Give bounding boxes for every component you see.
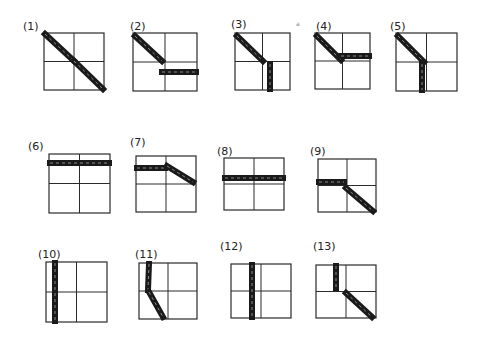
panel-label: (13) [313, 240, 336, 253]
panel-label: (4) [316, 20, 332, 33]
panel-label: (5) [390, 20, 406, 33]
pattern-panel: (13) [313, 240, 376, 318]
pattern-panel: (6) [28, 140, 110, 213]
stray-mark: a [296, 20, 300, 27]
panel-label: (3) [231, 18, 247, 31]
panel-label: (10) [38, 248, 61, 261]
pattern-panel: (2) [130, 20, 197, 91]
panel-label: (2) [130, 20, 146, 33]
pattern-panel: (11) [135, 248, 197, 319]
panel-label: (9) [310, 145, 326, 158]
pencil-stroke [317, 36, 341, 60]
panel-label: (6) [28, 140, 44, 153]
panel-label: (7) [130, 136, 146, 149]
panel-label: (11) [135, 248, 158, 261]
pattern-panel: (7) [130, 136, 196, 212]
pattern-panel: (12) [220, 240, 291, 318]
pattern-panel: (5) [390, 20, 457, 91]
pattern-panel: (8) [217, 145, 284, 210]
pattern-panel: (1) [23, 20, 104, 90]
pattern-panel: (10) [38, 248, 107, 322]
panel-label: (8) [217, 145, 233, 158]
panel-grid: (1)(2)(3)(4)(5)(6)(7)(8)(9)(10)(11)(12)(… [23, 18, 457, 322]
panel-label: (1) [23, 20, 39, 33]
stroke-pattern-diagram: a (1)(2)(3)(4)(5)(6)(7)(8)(9)(10)(11)(12… [0, 0, 485, 343]
pattern-panel: (4) [315, 20, 370, 89]
pattern-panel: (3) [231, 18, 290, 90]
panel-label: (12) [220, 240, 243, 253]
pattern-panel: (9) [310, 145, 376, 212]
